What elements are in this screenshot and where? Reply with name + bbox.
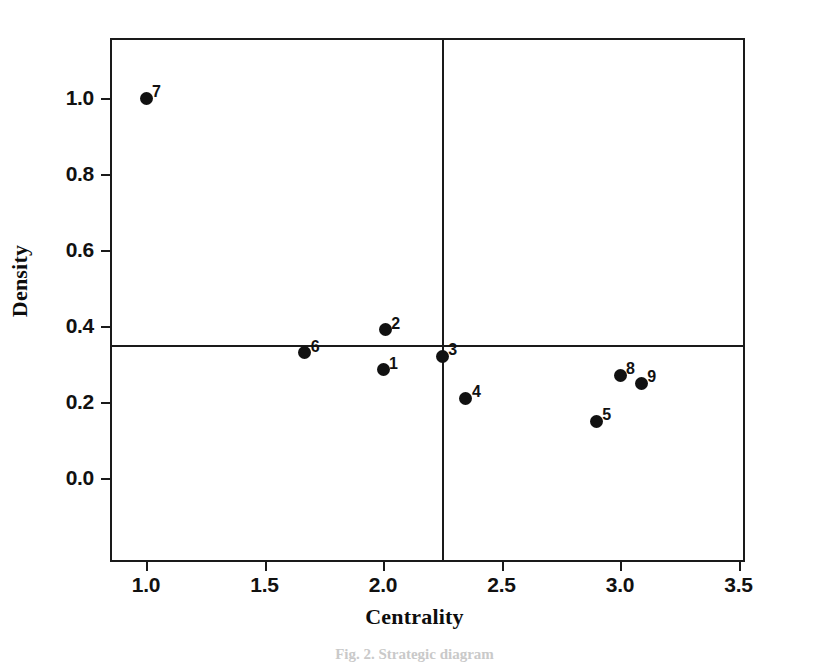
x-axis-tick — [739, 562, 741, 571]
data-point-label: 5 — [602, 406, 611, 424]
data-point-label: 4 — [472, 383, 481, 401]
data-point-marker — [614, 369, 627, 382]
x-axis-title: Centrality — [0, 604, 829, 630]
y-axis-tick-label: 1.0 — [26, 86, 94, 110]
x-axis-tick-label: 1.0 — [106, 573, 186, 597]
y-axis-tick — [101, 250, 110, 252]
x-axis-tick — [265, 562, 267, 571]
data-point-label: 3 — [448, 342, 457, 360]
y-axis-tick — [101, 402, 110, 404]
plot-frame — [110, 38, 745, 562]
data-point-label: 8 — [626, 361, 635, 379]
data-point-label: 6 — [311, 338, 320, 356]
x-axis-tick-label: 2.0 — [343, 573, 423, 597]
x-axis-tick — [146, 562, 148, 571]
vertical-reference-line — [442, 38, 444, 562]
y-axis-tick-label: 0.2 — [26, 390, 94, 414]
data-point-marker — [140, 92, 153, 105]
data-point-label: 1 — [389, 355, 398, 373]
data-point-label: 2 — [391, 315, 400, 333]
y-axis-tick-label: 0.0 — [26, 466, 94, 490]
y-axis-tick-label: 0.8 — [26, 162, 94, 186]
horizontal-reference-line — [110, 345, 745, 347]
y-axis-title: Density — [7, 201, 33, 361]
data-point-marker — [635, 377, 648, 390]
data-point-marker — [590, 415, 603, 428]
data-point-label: 9 — [647, 368, 656, 386]
x-axis-tick — [383, 562, 385, 571]
x-axis-tick-label: 1.5 — [225, 573, 305, 597]
x-axis-tick-label: 3.0 — [580, 573, 660, 597]
y-axis-tick — [101, 174, 110, 176]
x-axis-tick — [620, 562, 622, 571]
y-axis-tick — [101, 98, 110, 100]
y-axis-tick — [101, 478, 110, 480]
data-point-marker — [436, 350, 449, 363]
x-axis-tick-label: 3.5 — [699, 573, 779, 597]
data-point-marker — [377, 363, 390, 376]
x-axis-tick-label: 2.5 — [462, 573, 542, 597]
y-axis-tick-label: 0.6 — [26, 238, 94, 262]
figure-caption: Fig. 2. Strategic diagram — [0, 646, 829, 668]
x-axis-tick — [502, 562, 504, 571]
data-point-label: 7 — [152, 83, 161, 101]
y-axis-tick-label: 0.4 — [26, 314, 94, 338]
y-axis-tick — [101, 326, 110, 328]
figure-container: 1.01.52.02.53.03.50.00.20.40.60.81.0 123… — [0, 0, 829, 668]
